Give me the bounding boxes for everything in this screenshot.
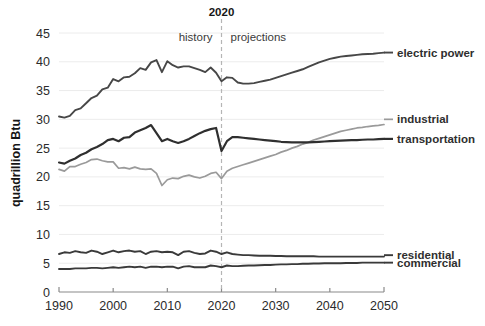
x-tick-label: 2010 <box>153 299 181 313</box>
y-tick-label: 30 <box>36 113 50 127</box>
series-label-commercial: commercial <box>397 257 461 269</box>
y-tick-label: 25 <box>36 142 50 156</box>
chart-canvas: 051015202530354045 199020002010202020302… <box>0 0 485 326</box>
x-tick-label: 2040 <box>316 299 344 313</box>
y-tick-label: 15 <box>36 199 50 213</box>
series-label-transportation: transportation <box>397 133 475 145</box>
y-tick-label: 45 <box>36 27 50 41</box>
series-labels: electric powerindustrialtransportationre… <box>384 47 475 269</box>
x-tick-label: 2050 <box>370 299 398 313</box>
y-tick-label: 40 <box>36 55 50 69</box>
y-tick-label: 10 <box>36 228 50 242</box>
y-tick-label: 0 <box>43 286 50 300</box>
series-line-transportation <box>59 125 384 164</box>
divider-year-label: 2020 <box>209 6 235 18</box>
y-tick-label: 5 <box>43 257 50 271</box>
divider-annotations: 2020historyprojections <box>179 6 287 43</box>
y-tick-label: 20 <box>36 170 50 184</box>
y-axis-title: quadrillion Btu <box>9 119 23 207</box>
series-label-industrial: industrial <box>397 113 449 125</box>
projections-label: projections <box>231 31 287 43</box>
y-tick-label: 35 <box>36 84 50 98</box>
x-tick-label: 2030 <box>262 299 290 313</box>
x-tick-label: 1990 <box>45 299 73 313</box>
history-label: history <box>179 31 213 43</box>
energy-consumption-chart: 051015202530354045 199020002010202020302… <box>0 0 485 326</box>
series-label-electric-power: electric power <box>397 47 475 59</box>
x-tick-label: 2000 <box>99 299 127 313</box>
x-tick-label: 2020 <box>208 299 236 313</box>
y-axis-ticks: 051015202530354045 <box>36 27 50 300</box>
